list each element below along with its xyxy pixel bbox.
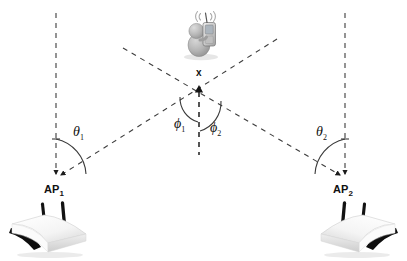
router-ground-shadow bbox=[324, 252, 390, 258]
phi-2-label: ϕ2 bbox=[210, 121, 221, 138]
ap2-label: AP2 bbox=[333, 184, 353, 198]
ap1-label-subscript: 1 bbox=[59, 189, 64, 198]
theta-1-label: θ1 bbox=[73, 125, 84, 142]
router-ground-shadow bbox=[17, 252, 83, 258]
theta-1-subscript: 1 bbox=[80, 133, 84, 142]
diagram-canvas: x AP1 AP2 θ1 ϕ1 ϕ2 θ2 bbox=[0, 0, 407, 261]
ap1-label: AP1 bbox=[44, 184, 64, 198]
ap1-label-text: AP bbox=[44, 183, 59, 195]
router-icon-layer bbox=[0, 0, 407, 261]
phi-1-subscript: 1 bbox=[181, 125, 185, 134]
phi-1-label: ϕ1 bbox=[174, 117, 185, 134]
phi-2-subscript: 2 bbox=[217, 129, 221, 138]
wifi-router-icon-ap2 bbox=[321, 203, 398, 258]
wifi-router-icon-ap1 bbox=[9, 203, 86, 258]
ap2-label-text: AP bbox=[333, 183, 348, 195]
target-label: x bbox=[196, 68, 202, 78]
theta-2-label: θ2 bbox=[316, 125, 327, 142]
theta-2-symbol: θ bbox=[316, 124, 323, 139]
theta-1-symbol: θ bbox=[73, 124, 80, 139]
theta-2-subscript: 2 bbox=[323, 133, 327, 142]
ap2-label-subscript: 2 bbox=[348, 189, 353, 198]
